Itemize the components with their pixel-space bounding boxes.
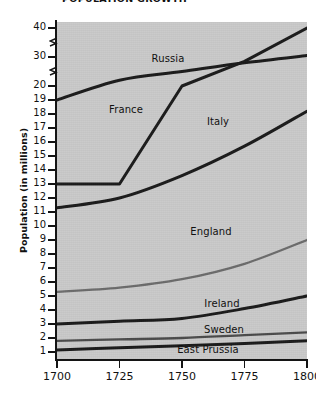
x-axis-tick-label: 1750 xyxy=(168,370,196,383)
y-axis-tick-label: 12 xyxy=(6,192,46,202)
y-axis-tick-label: 7 xyxy=(6,262,46,272)
x-axis-tick xyxy=(306,361,308,368)
series-line-ireland xyxy=(57,296,307,324)
y-axis-tick xyxy=(48,211,55,213)
y-axis-tick-label: 13 xyxy=(6,178,46,188)
series-label-east-prussia: East Prussia xyxy=(177,344,239,355)
y-axis-tick-label: 15 xyxy=(6,150,46,160)
y-axis-tick-label: 3 xyxy=(6,318,46,328)
y-axis-tick xyxy=(48,323,55,325)
x-axis-tick-label: 1700 xyxy=(43,370,71,383)
y-axis-tick xyxy=(48,155,55,157)
series-line-sweden xyxy=(57,332,307,340)
x-axis-tick xyxy=(56,361,58,368)
x-axis-tick-label: 1725 xyxy=(106,370,134,383)
y-axis-tick-label: 5 xyxy=(6,290,46,300)
series-line-france xyxy=(57,28,307,184)
y-axis-tick xyxy=(48,309,55,311)
y-axis-tick xyxy=(48,127,55,129)
y-axis-tick xyxy=(48,183,55,185)
y-axis-tick-label: 1 xyxy=(6,346,46,356)
x-axis-tick xyxy=(181,361,183,368)
x-axis-tick-label: 1775 xyxy=(231,370,259,383)
y-axis-tick-label: 14 xyxy=(6,164,46,174)
y-axis-tick xyxy=(48,295,55,297)
y-axis-tick-label: 10 xyxy=(6,220,46,230)
series-label-italy: Italy xyxy=(207,116,229,127)
series-label-sweden: Sweden xyxy=(204,324,244,335)
y-axis-tick-label: 8 xyxy=(6,248,46,258)
series-label-ireland: Ireland xyxy=(204,298,239,309)
y-axis-tick-label: 30 xyxy=(6,51,46,61)
y-axis-tick xyxy=(48,85,55,87)
y-axis-tick-label: 19 xyxy=(6,94,46,104)
y-axis-tick-label: 2 xyxy=(6,332,46,342)
y-axis-tick xyxy=(48,99,55,101)
y-axis-tick-label: 17 xyxy=(6,122,46,132)
y-axis-tick xyxy=(48,267,55,269)
y-axis-tick-label: 20 xyxy=(6,80,46,90)
y-axis-tick-label: 40 xyxy=(6,22,46,32)
y-axis-tick-label: 4 xyxy=(6,304,46,314)
y-axis-tick xyxy=(48,253,55,255)
y-axis-tick xyxy=(48,113,55,115)
y-axis-tick-label: 16 xyxy=(6,136,46,146)
y-axis-tick-label: 9 xyxy=(6,234,46,244)
axis-break-icon xyxy=(49,66,61,78)
y-axis-tick xyxy=(48,197,55,199)
y-axis-tick xyxy=(48,281,55,283)
y-axis-tick xyxy=(48,239,55,241)
series-line-italy xyxy=(57,111,307,208)
x-axis-tick xyxy=(119,361,121,368)
plot-lines xyxy=(57,22,307,359)
axis-break-icon xyxy=(49,37,61,49)
y-axis-tick-label: 11 xyxy=(6,206,46,216)
y-axis-tick xyxy=(48,56,55,58)
y-axis-tick xyxy=(48,169,55,171)
y-axis-tick xyxy=(48,337,55,339)
series-label-france: France xyxy=(109,104,143,115)
y-axis-tick xyxy=(48,141,55,143)
plot-area xyxy=(57,22,307,359)
y-axis-tick xyxy=(48,225,55,227)
x-axis-tick xyxy=(244,361,246,368)
y-axis-tick-label: 6 xyxy=(6,276,46,286)
y-axis-tick xyxy=(48,27,55,29)
chart-title: POPULATION GROWTH xyxy=(62,0,187,2)
series-line-england xyxy=(57,240,307,292)
y-axis-tick xyxy=(48,351,55,353)
x-axis-tick-label: 1800 xyxy=(293,370,316,383)
y-axis-tick-label: 18 xyxy=(6,108,46,118)
population-growth-chart: POPULATION GROWTH Population (in million… xyxy=(0,0,316,401)
series-label-russia: Russia xyxy=(152,53,185,64)
series-label-england: England xyxy=(190,226,231,237)
